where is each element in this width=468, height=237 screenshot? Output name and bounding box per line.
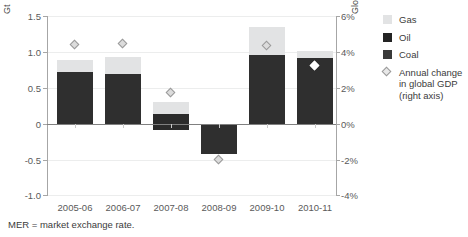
x-tick bbox=[123, 124, 124, 128]
y-tick-label-right: 2% bbox=[341, 83, 375, 94]
legend-swatch-gas-icon bbox=[383, 15, 392, 24]
y-tick-label-left: 0.5 bbox=[7, 83, 41, 94]
gdp-marker bbox=[70, 40, 80, 50]
y-tick-left bbox=[43, 52, 47, 53]
legend-label-coal: Coal bbox=[399, 49, 419, 61]
y-tick-right bbox=[336, 16, 340, 17]
y-axis-right-line bbox=[336, 16, 337, 196]
legend-swatch-coal-icon bbox=[383, 50, 392, 59]
y-tick-label-right: -4% bbox=[341, 190, 375, 201]
y-tick-left bbox=[43, 16, 47, 17]
gridline bbox=[48, 195, 336, 196]
x-tick-label: 2009-10 bbox=[243, 202, 291, 213]
bar-segment-gas bbox=[105, 57, 141, 74]
y-tick-right bbox=[336, 195, 340, 196]
legend-item-coal: Coal bbox=[383, 49, 468, 61]
y-tick-label-right: 6% bbox=[341, 11, 375, 22]
y-tick-label-left: -1.0 bbox=[7, 190, 41, 201]
x-tick bbox=[267, 124, 268, 128]
footnote: MER = market exchange rate. bbox=[8, 219, 134, 230]
legend-label-oil: Oil bbox=[399, 32, 411, 44]
bar-segment-gas bbox=[297, 51, 333, 58]
legend-item-gdp: Annual change in global GDP (right axis) bbox=[383, 67, 468, 102]
y-tick-label-left: -0.5 bbox=[7, 155, 41, 166]
y-tick-label-left: 1.0 bbox=[7, 47, 41, 58]
x-tick-label: 2007-08 bbox=[147, 202, 195, 213]
x-tick-label: 2005-06 bbox=[51, 202, 99, 213]
y-tick-right bbox=[336, 52, 340, 53]
legend-item-gas: Gas bbox=[383, 14, 468, 26]
y-tick-right bbox=[336, 88, 340, 89]
legend-label-gdp: Annual change in global GDP (right axis) bbox=[399, 67, 468, 102]
gdp-marker bbox=[118, 39, 128, 49]
legend-swatch-oil-icon bbox=[383, 33, 392, 42]
y-tick-label-left: 1.5 bbox=[7, 11, 41, 22]
bar-segment-coal bbox=[201, 124, 237, 154]
y-tick-left bbox=[43, 88, 47, 89]
x-tick-label: 2010-11 bbox=[291, 202, 339, 213]
bar-segment-coal bbox=[57, 72, 93, 124]
gdp-marker bbox=[166, 88, 176, 98]
x-tick bbox=[219, 124, 220, 128]
x-tick bbox=[75, 124, 76, 128]
bar-segment-gas bbox=[57, 60, 93, 72]
bar-segment-coal bbox=[249, 55, 285, 124]
y-tick-right bbox=[336, 160, 340, 161]
y-tick-label-left: 0 bbox=[7, 119, 41, 130]
y-tick-left bbox=[43, 160, 47, 161]
x-tick-label: 2006-07 bbox=[99, 202, 147, 213]
bar-segment-coal bbox=[105, 74, 141, 124]
chart-figure: Gt Global GDP growth ($2011, MER) 1.5 1.… bbox=[0, 0, 468, 237]
x-tick-label: 2008-09 bbox=[195, 202, 243, 213]
zero-line bbox=[47, 124, 336, 125]
legend-diamond-marker-icon bbox=[383, 68, 392, 77]
chart-legend: Gas Oil Coal Annual change in global GDP… bbox=[383, 14, 468, 107]
x-tick bbox=[315, 124, 316, 128]
y-tick-right bbox=[336, 124, 340, 125]
plot-area: 1.5 1.0 0.5 0 -0.5 -1.0 6% 4% 2% 0% -2% … bbox=[47, 16, 337, 196]
y-tick-label-right: 0% bbox=[341, 119, 375, 130]
gridline bbox=[48, 52, 336, 53]
legend-item-oil: Oil bbox=[383, 32, 468, 44]
y-tick-label-right: -2% bbox=[341, 155, 375, 166]
y-tick-label-right: 4% bbox=[341, 47, 375, 58]
y-tick-left bbox=[43, 195, 47, 196]
x-tick bbox=[171, 124, 172, 128]
gridline bbox=[48, 16, 336, 17]
legend-label-gas: Gas bbox=[399, 14, 416, 26]
gridline bbox=[48, 160, 336, 161]
y-axis-left-line bbox=[47, 16, 48, 196]
gdp-marker bbox=[214, 155, 224, 165]
